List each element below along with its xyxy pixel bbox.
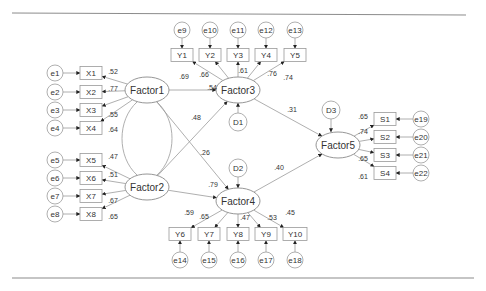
error-label: e17 xyxy=(259,256,273,265)
error-label: e22 xyxy=(414,169,428,178)
error-label: e8 xyxy=(51,210,60,219)
loading-factor3-y2 xyxy=(215,62,228,79)
path-coefficient: .40 xyxy=(274,164,284,171)
factor-label: Factor4 xyxy=(221,196,255,207)
indicator-label: Y4 xyxy=(261,51,271,60)
loading-coefficient: .66 xyxy=(199,71,209,78)
disturbance-label: D2 xyxy=(233,164,244,173)
error-label: e9 xyxy=(178,26,187,35)
error-label: e21 xyxy=(414,151,428,160)
loading-coefficient: .74 xyxy=(283,74,293,81)
factor-label: Factor3 xyxy=(221,85,255,96)
loading-coefficient: .65 xyxy=(358,113,368,120)
error-label: e1 xyxy=(51,69,60,78)
loading-coefficient: .64 xyxy=(108,126,118,133)
indicator-label: X4 xyxy=(86,124,96,133)
path-factor4-factor5 xyxy=(254,154,322,192)
path-coefficient: .31 xyxy=(287,106,297,113)
loading-coefficient: .55 xyxy=(108,111,118,118)
error-label: e18 xyxy=(288,256,302,265)
indicator-label: S1 xyxy=(380,115,390,124)
loading-coefficient: .76 xyxy=(267,70,277,77)
loading-coefficient: .67 xyxy=(108,197,118,204)
factor-label: Factor5 xyxy=(321,140,355,151)
indicator-label: X8 xyxy=(86,210,96,219)
indicator-label: S3 xyxy=(380,151,390,160)
factor-label: Factor2 xyxy=(130,182,164,193)
factor-label: Factor1 xyxy=(130,85,164,96)
indicator-label: X7 xyxy=(86,192,96,201)
error-label: e14 xyxy=(173,256,187,265)
covariance-factor1-factor2-inner xyxy=(157,102,172,175)
loading-factor5-s2 xyxy=(359,139,374,142)
loading-factor2-x7 xyxy=(102,190,126,194)
loading-coefficient: .61 xyxy=(358,173,368,180)
loading-coefficient: .65 xyxy=(108,213,118,220)
loading-coefficient: .45 xyxy=(285,209,295,216)
indicator-label: Y9 xyxy=(261,230,271,239)
loading-factor1-x3 xyxy=(102,97,128,106)
path-coefficient: .79 xyxy=(208,181,218,188)
indicator-label: Y7 xyxy=(204,230,214,239)
indicator-label: Y6 xyxy=(175,230,185,239)
error-label: e6 xyxy=(51,174,60,183)
loading-coefficient: .65 xyxy=(358,155,368,162)
loading-coefficient: .74 xyxy=(358,128,368,135)
loading-coefficient: .53 xyxy=(267,214,277,221)
disturbance-label: D3 xyxy=(326,106,337,115)
indicator-label: Y2 xyxy=(205,51,215,60)
path-factor2-factor4 xyxy=(168,190,216,197)
error-label: e4 xyxy=(51,124,60,133)
indicator-label: X3 xyxy=(86,106,96,115)
disturbance-label: D1 xyxy=(233,118,244,127)
indicator-label: Y3 xyxy=(233,51,243,60)
error-label: e15 xyxy=(202,256,216,265)
indicator-label: Y1 xyxy=(177,51,187,60)
loading-factor5-s3 xyxy=(359,149,374,152)
path-factor2-factor3 xyxy=(158,101,228,175)
top-rule xyxy=(12,13,466,15)
path-coefficient: .54 xyxy=(207,84,217,91)
loading-coefficient: .47 xyxy=(240,214,250,221)
path-coefficient: .26 xyxy=(200,149,210,156)
indicator-label: Y5 xyxy=(290,51,300,60)
path-coefficient: .48 xyxy=(191,114,201,121)
loading-factor3-y4 xyxy=(247,62,260,79)
loading-factor4-y7 xyxy=(215,213,228,228)
loading-coefficient: .77 xyxy=(108,85,118,92)
loading-factor1-x1 xyxy=(102,76,127,84)
error-label: e13 xyxy=(288,26,302,35)
indicator-label: X6 xyxy=(86,174,96,183)
sem-diagram: .54.48.26.79.31.40D1D2D3X1.52e1X2.77e2X3… xyxy=(0,0,486,291)
indicator-label: Y10 xyxy=(288,230,303,239)
indicator-label: X2 xyxy=(86,88,96,97)
error-label: e7 xyxy=(51,192,60,201)
error-label: e10 xyxy=(203,26,217,35)
loading-coefficient: .59 xyxy=(184,209,194,216)
error-label: e12 xyxy=(259,26,273,35)
loading-coefficient: .61 xyxy=(238,67,248,74)
indicator-label: S2 xyxy=(380,133,390,142)
indicator-label: Y8 xyxy=(233,230,243,239)
error-label: e3 xyxy=(51,106,60,115)
error-label: e5 xyxy=(51,156,60,165)
loading-coefficient: .47 xyxy=(108,153,118,160)
error-label: e2 xyxy=(51,88,60,97)
loading-coefficient: .69 xyxy=(179,73,189,80)
error-label: e20 xyxy=(414,133,428,142)
indicator-label: S4 xyxy=(380,169,390,178)
loading-coefficient: .65 xyxy=(199,213,209,220)
error-label: e11 xyxy=(232,26,245,35)
path-factor3-factor5 xyxy=(254,99,322,136)
loading-factor2-x6 xyxy=(102,180,126,184)
indicator-label: X1 xyxy=(86,69,96,78)
loading-coefficient: .51 xyxy=(108,171,118,178)
loading-coefficient: .52 xyxy=(108,68,118,75)
covariance-factor1-factor2 xyxy=(122,102,137,175)
error-label: e16 xyxy=(231,256,245,265)
indicator-label: X5 xyxy=(86,156,96,165)
error-label: e19 xyxy=(414,115,428,124)
